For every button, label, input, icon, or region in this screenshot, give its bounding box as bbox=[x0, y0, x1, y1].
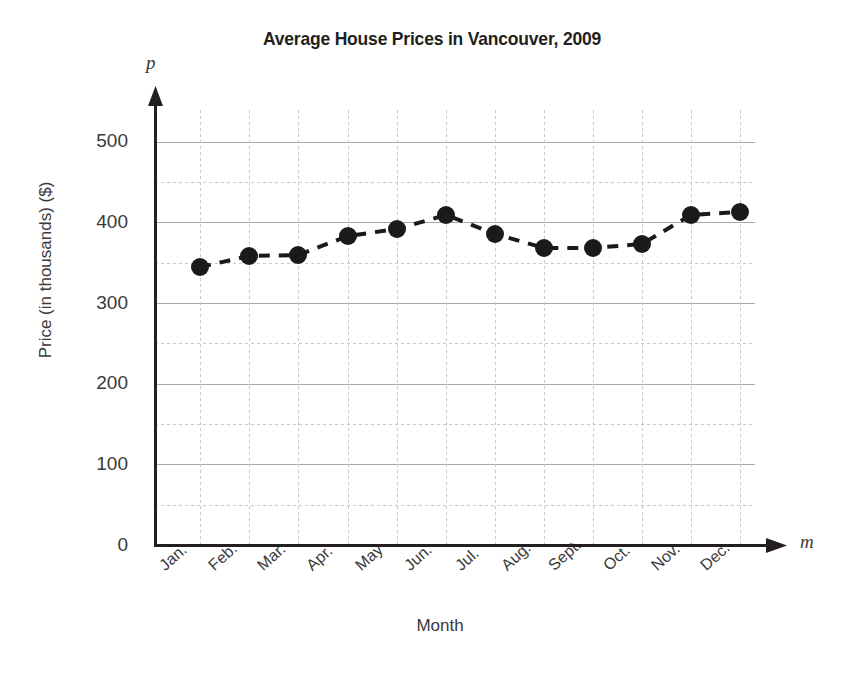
data-point-aug bbox=[535, 239, 553, 257]
data-point-apr bbox=[339, 227, 357, 245]
x-axis bbox=[154, 538, 787, 553]
data-point-dec bbox=[731, 203, 749, 221]
major-gridlines-horizontal bbox=[155, 143, 755, 465]
chart-figure: Average House Prices in Vancouver, 2009 … bbox=[0, 0, 864, 675]
data-point-jan bbox=[191, 258, 209, 276]
data-point-nov bbox=[682, 206, 700, 224]
data-point-oct bbox=[633, 235, 651, 253]
gridlines-vertical bbox=[201, 110, 741, 545]
data-point-sept bbox=[584, 239, 602, 257]
data-point-may bbox=[388, 220, 406, 238]
data-point-jun bbox=[437, 206, 455, 224]
data-series-house-prices bbox=[191, 203, 749, 276]
series-line bbox=[200, 212, 740, 267]
y-axis bbox=[148, 86, 163, 546]
plot-area bbox=[0, 0, 864, 675]
data-point-jul bbox=[486, 225, 504, 243]
data-point-mar bbox=[289, 246, 307, 264]
data-point-feb bbox=[240, 247, 258, 265]
